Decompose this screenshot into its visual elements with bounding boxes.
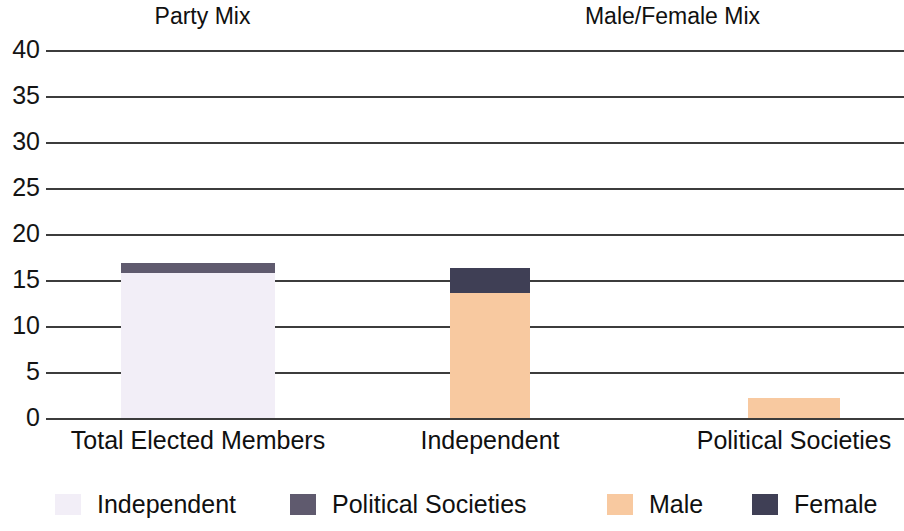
y-axis: 4035302520151050 [0,50,40,418]
x-axis-labels: Total Elected MembersIndependentPolitica… [0,424,904,464]
legend-swatch-male [607,494,633,515]
legend-entry-male[interactable]: Male [607,486,703,522]
bar-segment-male [450,293,530,418]
legend-label-female: Female [794,489,877,519]
legend-label-male: Male [649,489,703,519]
bar-chart-figure: Party Mix Male/Female Mix 40353025201510… [0,0,904,531]
y-tick-label-15: 15 [0,267,40,292]
chart-title-male-female-mix: Male/Female Mix [545,2,800,30]
y-tick-label-30: 30 [0,129,40,154]
legend-label-political-societies: Political Societies [332,489,527,519]
legend-entry-independent[interactable]: Independent [55,486,236,522]
y-tick-label-5: 5 [0,359,40,384]
bar-segment-political-societies [121,263,275,272]
y-tick-label-10: 10 [0,313,40,338]
legend-entry-political-societies[interactable]: Political Societies [290,486,527,522]
legend-entry-female[interactable]: Female [752,486,877,522]
y-tick-label-35: 35 [0,83,40,108]
y-tick-label-25: 25 [0,175,40,200]
y-tick-label-40: 40 [0,37,40,62]
x-axis-label-political-societies: Political Societies [594,424,904,456]
legend-swatch-political-societies [290,494,316,515]
legend-label-independent: Independent [97,489,236,519]
bar-independent[interactable] [450,50,530,418]
gridline-0 [46,418,904,420]
chart-title-party-mix: Party Mix [85,2,320,30]
bar-political-societies[interactable] [748,50,840,418]
plot-area [46,50,904,418]
bar-segment-female [450,268,530,293]
y-tick-label-20: 20 [0,221,40,246]
legend-swatch-independent [55,494,81,515]
bar-segment-independent [121,273,275,418]
legend-swatch-female [752,494,778,515]
bar-segment-male [748,398,840,418]
bar-total-elected-members[interactable] [121,50,275,418]
chart-legend: IndependentPolitical SocietiesMaleFemale [0,486,904,531]
